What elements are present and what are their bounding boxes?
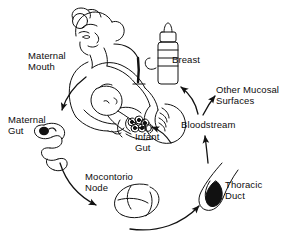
label-bloodstream: Bloodstream [181, 119, 235, 130]
mother-head [72, 8, 124, 68]
label-thoracic-duct: Thoracic Duct [225, 179, 262, 201]
cycle-arrows [60, 77, 215, 230]
arrow-bloodstream-to-other-mucosal [203, 96, 215, 115]
arrow-thoracic-duct-to-bloodstream [205, 136, 208, 163]
label-maternal-mouth: Maternal Mouth [28, 50, 66, 72]
arrow-bloodstream-to-breast [181, 87, 198, 114]
label-other-mucosal-surfaces: Other Mucosal Surfaces [216, 84, 279, 106]
label-mesenteric-node: Mocontorio Node [85, 171, 133, 193]
label-breast: Breast [172, 54, 200, 65]
label-infant-gut: Infant Gut [135, 131, 159, 153]
arrow-mesenteric-node-to-thoracic-duct [130, 206, 199, 230]
label-maternal-gut: Maternal Gut [8, 114, 46, 136]
diagram-canvas: Maternal Mouth Breast Other Mucosal Surf… [0, 0, 294, 252]
arrow-mouth-to-maternal-gut [62, 77, 86, 110]
